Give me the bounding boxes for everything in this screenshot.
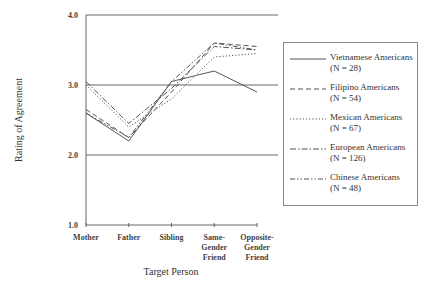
y-tick-label: 1.0 xyxy=(68,221,78,230)
legend: Vietnamese Americans(N = 28)Filipino Ame… xyxy=(283,42,418,206)
x-tick-label: Friend xyxy=(245,253,269,262)
legend-label: Filipino Americans(N = 54) xyxy=(330,82,399,104)
x-tick-label: Sibling xyxy=(159,233,183,242)
series-line-chinese-americans xyxy=(86,43,257,138)
legend-item: Vietnamese Americans(N = 28) xyxy=(288,55,416,81)
legend-item: Mexican Americans(N = 67) xyxy=(288,115,416,141)
legend-label: Vietnamese Americans(N = 28) xyxy=(330,52,413,74)
x-tick-label: Same- xyxy=(204,233,226,242)
y-tick-label: 2.0 xyxy=(68,151,78,160)
legend-line-swatch-icon xyxy=(290,176,328,182)
y-tick-label: 4.0 xyxy=(68,11,78,20)
legend-line-swatch-icon xyxy=(290,86,328,92)
gridlines xyxy=(86,15,278,155)
legend-label: Mexican Americans(N = 67) xyxy=(330,112,402,134)
series-lines xyxy=(86,43,257,141)
x-tick-label: Gender xyxy=(244,243,270,252)
legend-label: Chinese Americans(N = 48) xyxy=(330,172,400,194)
axes xyxy=(86,15,257,225)
y-tick-label: 3.0 xyxy=(68,81,78,90)
legend-line-swatch-icon xyxy=(290,56,328,62)
legend-line-swatch-icon xyxy=(290,146,328,152)
x-axis-title: Target Person xyxy=(144,266,199,277)
y-axis-ticks: 1.02.03.04.0 xyxy=(68,11,78,230)
legend-item: Chinese Americans(N = 48) xyxy=(288,175,416,201)
legend-line-swatch-icon xyxy=(290,116,328,122)
legend-item: Filipino Americans(N = 54) xyxy=(288,85,416,111)
y-axis-title: Rating of Agreement xyxy=(13,78,24,162)
series-line-filipino-americans xyxy=(86,43,257,138)
x-tick-label: Gender xyxy=(201,243,227,252)
x-tick-label: Mother xyxy=(73,233,99,242)
legend-item: European Americans(N = 126) xyxy=(288,145,416,171)
x-tick-label: Friend xyxy=(203,253,227,262)
legend-label: European Americans(N = 126) xyxy=(330,142,405,164)
series-line-mexican-americans xyxy=(86,54,257,128)
x-tick-label: Opposite- xyxy=(240,233,274,242)
x-axis-ticks: MotherFatherSiblingSame-GenderFriendOppo… xyxy=(73,223,274,262)
x-tick-label: Father xyxy=(117,233,141,242)
